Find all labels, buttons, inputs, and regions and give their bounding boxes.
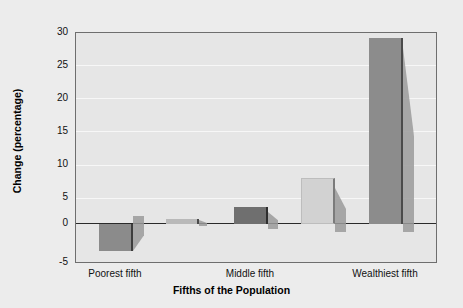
y-tick-label-25: 25 <box>38 60 68 70</box>
bar-shadow <box>403 48 414 232</box>
x-tick-label-middle: Middle fifth <box>195 268 305 279</box>
bar-poorest-fifth <box>99 224 133 251</box>
y-tick-label-20: 20 <box>38 93 68 103</box>
y-tick-label-10: 10 <box>38 159 68 169</box>
bar-shadow <box>268 212 278 229</box>
bar-fourth-fifth <box>301 178 335 224</box>
bar-face <box>301 178 335 224</box>
x-axis-title: Fifths of the Population <box>0 284 463 296</box>
x-tick-label-poorest: Poorest fifth <box>60 268 170 279</box>
bar-shadow <box>199 220 207 226</box>
bar-face <box>369 38 403 224</box>
bar-face <box>99 224 133 251</box>
plot-area <box>75 32 437 263</box>
chart-figure: Change (percentage) 30 25 20 15 10 5 0 -… <box>0 0 463 308</box>
bar-face <box>234 207 268 224</box>
y-tick-label-15: 15 <box>38 126 68 136</box>
bar-shadow <box>133 216 144 251</box>
bar-middle-fifth <box>234 207 268 224</box>
y-tick-label-30: 30 <box>38 27 68 37</box>
y-tick-label-5: 5 <box>38 192 68 202</box>
bar-shadow <box>335 188 346 232</box>
bar-second-fifth <box>166 219 199 224</box>
y-tick-label-neg5: -5 <box>38 257 68 267</box>
y-axis-title: Change (percentage) <box>10 56 24 226</box>
y-axis-title-text: Change (percentage) <box>11 89 23 193</box>
bar-face <box>166 219 199 224</box>
y-tick-label-0: 0 <box>38 218 68 228</box>
x-tick-label-wealthiest: Wealthiest fifth <box>330 268 440 279</box>
bar-wealthiest-fifth <box>369 38 403 224</box>
